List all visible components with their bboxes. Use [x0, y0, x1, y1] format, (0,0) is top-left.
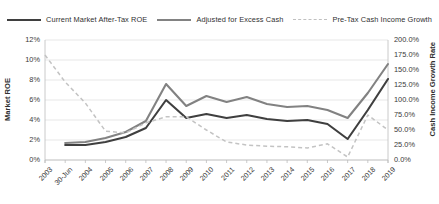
data-series-group — [45, 55, 388, 157]
series-line-pre-tax-cash-income-growth — [45, 55, 388, 157]
plot-area — [0, 0, 439, 204]
gridlines — [45, 40, 388, 163]
chart-container: Current Market After-Tax ROE Adjusted fo… — [0, 0, 439, 204]
series-line-adjusted-for-excess-cash — [65, 64, 388, 143]
